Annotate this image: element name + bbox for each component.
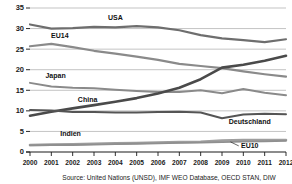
y-axis-tick-label: 30 (16, 24, 24, 33)
y-axis-tick-label: 10 (16, 106, 24, 115)
series-label-china: China (78, 96, 98, 103)
series-label-deutschland: Deutschland (229, 118, 271, 125)
x-axis-tick-label: 2002 (65, 159, 80, 166)
series-label-indien: Indien (60, 130, 81, 137)
x-axis-tick-label: 2011 (258, 159, 273, 166)
x-axis-tick-label: 2000 (23, 159, 38, 166)
x-axis-tick-label: 2001 (44, 159, 59, 166)
source-note: Source: United Nations (UNSD), IMF WEO D… (62, 174, 276, 182)
x-axis-tick-label: 2010 (236, 159, 251, 166)
x-axis-tick-label: 2009 (215, 159, 230, 166)
series-label-eu10: EU10 (241, 142, 259, 149)
series-label-eu14: EU14 (51, 32, 69, 39)
y-axis-tick-label: 0 (20, 147, 24, 156)
x-axis-tick-label: 2005 (129, 159, 144, 166)
y-axis-tick-label: 20 (16, 65, 24, 74)
series-label-japan: Japan (45, 72, 65, 80)
x-axis-tick-label: 2003 (87, 159, 102, 166)
x-axis-tick-label: 2006 (151, 159, 166, 166)
y-axis-tick-label: 15 (16, 86, 24, 95)
y-axis-tick-label: 35 (16, 3, 24, 12)
y-axis-tick-label: 25 (16, 45, 24, 54)
line-chart: 05101520253035 2000200120022003200420052… (0, 0, 292, 184)
x-axis-tick-label: 2012 (279, 159, 292, 166)
series-label-usa: USA (108, 14, 123, 21)
y-axis-tick-label: 5 (20, 127, 24, 136)
x-axis-tick-label: 2004 (108, 159, 123, 166)
x-axis-tick-label: 2008 (193, 159, 208, 166)
x-axis-tick-label: 2007 (172, 159, 187, 166)
chart-container: 05101520253035 2000200120022003200420052… (0, 0, 292, 184)
